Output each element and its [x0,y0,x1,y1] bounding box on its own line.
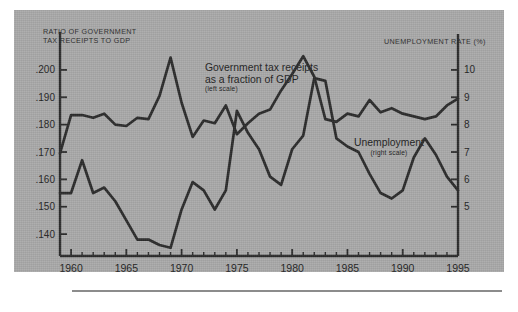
right-axis-tick-label: 9 [464,92,470,103]
left-axis-tick-label: .160 [36,174,56,185]
x-axis-tick-label: 1970 [170,262,194,272]
left-axis-tick-label: .190 [36,92,56,103]
data-series-group [60,56,458,248]
right-axis-tick-label: 10 [464,64,476,75]
left-axis-tick-label: .140 [36,229,56,240]
x-axis-tick-label: 1985 [336,262,360,272]
chart-plot: .140.150.160.170.180.190.200567891019601… [14,10,504,272]
right-axis-tick-label: 5 [464,201,470,212]
left-axis-tick-label: .180 [36,119,56,130]
figure-bottom-rule [72,290,502,292]
right-axis-tick-label: 6 [464,174,470,185]
x-axis-tick-label: 1990 [391,262,415,272]
data-line-tax-receipts [60,56,458,153]
right-axis-tick-label: 8 [464,119,470,130]
left-axis-tick-label: .200 [36,64,56,75]
x-axis-tick-label: 1960 [59,262,83,272]
x-axis-tick-label: 1995 [446,262,470,272]
left-axis-tick-label: .150 [36,201,56,212]
ticks-group [60,70,458,256]
left-axis-tick-label: .170 [36,147,56,158]
chart-panel: RATIO OF GOVERNMENT TAX RECEIPTS TO GDP … [14,10,504,272]
x-axis-tick-label: 1975 [225,262,249,272]
right-axis-tick-label: 7 [464,147,470,158]
data-line-unemployment [60,78,458,248]
axes-group [60,32,458,256]
x-axis-tick-label: 1980 [280,262,304,272]
figure-root: RATIO OF GOVERNMENT TAX RECEIPTS TO GDP … [0,0,518,312]
x-axis-tick-label: 1965 [115,262,139,272]
